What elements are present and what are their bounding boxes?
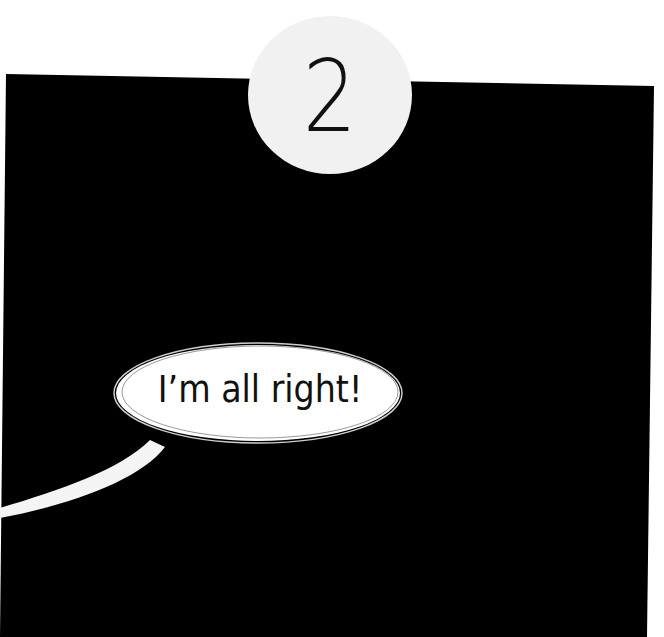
speech-bubble-text: I’m all right! xyxy=(134,368,386,411)
panel-number: 2 xyxy=(303,47,357,147)
panel-number-badge: 2 xyxy=(248,16,412,174)
